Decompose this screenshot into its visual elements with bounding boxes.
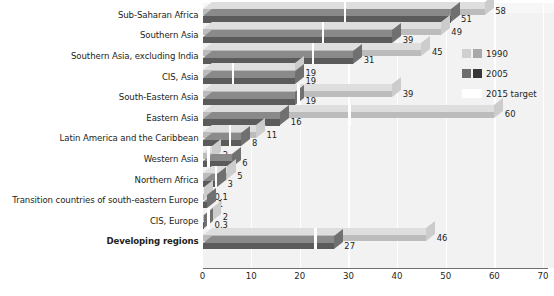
bar-top-face bbox=[203, 63, 304, 70]
bar-value-label: 6 bbox=[242, 158, 247, 168]
category-label: Southern Asia, excluding India bbox=[4, 51, 199, 61]
category-label: South-Eastern Asia bbox=[4, 92, 199, 102]
gridline bbox=[543, 4, 544, 268]
category-label: CIS, Asia bbox=[4, 72, 199, 82]
bar-top-face bbox=[203, 105, 504, 112]
bar-value-label: 49 bbox=[451, 27, 462, 37]
category-label: Developing regions bbox=[4, 236, 199, 246]
target-marker bbox=[314, 236, 316, 249]
legend-label: 1990 bbox=[486, 49, 508, 59]
x-tick-label: 40 bbox=[382, 271, 412, 281]
legend-swatch-target bbox=[462, 89, 482, 98]
bar-value-label: 8 bbox=[252, 138, 257, 148]
bar-value-label: 60 bbox=[505, 109, 516, 119]
bar-1990 bbox=[203, 194, 205, 200]
bar-top-face bbox=[203, 9, 460, 16]
target-marker bbox=[229, 133, 231, 146]
bar-value-label: 5 bbox=[237, 171, 242, 181]
bar-value-label: 3 bbox=[228, 179, 233, 189]
target-marker bbox=[207, 215, 209, 228]
bar-top-face bbox=[203, 2, 494, 9]
bar-top-face bbox=[203, 228, 436, 235]
x-tick-label: 10 bbox=[236, 271, 266, 281]
category-label: CIS, Europe bbox=[4, 216, 199, 226]
legend-swatch-dark bbox=[473, 49, 482, 58]
bar-value-label: 51 bbox=[461, 14, 472, 24]
x-axis-line bbox=[203, 268, 549, 269]
bar-top-face bbox=[203, 112, 290, 119]
bar-value-label: 46 bbox=[437, 233, 448, 243]
bar-value-label: 58 bbox=[495, 6, 506, 16]
x-tick-label: 70 bbox=[528, 271, 554, 281]
bar-top-face bbox=[203, 71, 304, 78]
legend-swatch-dark bbox=[473, 69, 482, 78]
x-tick-label: 20 bbox=[285, 271, 315, 281]
bar-value-label: 16 bbox=[291, 117, 302, 127]
x-tick-label: 60 bbox=[479, 271, 509, 281]
bar-top-face bbox=[203, 30, 402, 37]
category-label: Sub-Saharan Africa bbox=[4, 10, 199, 20]
category-label: Latin America and the Caribbean bbox=[4, 133, 199, 143]
category-label: Western Asia bbox=[4, 154, 199, 164]
chart-root: Sub-Saharan AfricaSouthern AsiaSouthern … bbox=[0, 0, 554, 296]
bar-top-face bbox=[203, 43, 431, 50]
target-marker bbox=[297, 92, 299, 105]
gridline bbox=[446, 4, 447, 268]
bar-value-label: 39 bbox=[403, 89, 414, 99]
target-marker bbox=[322, 30, 324, 43]
bar-value-label: 45 bbox=[432, 47, 443, 57]
gridline bbox=[494, 4, 495, 268]
legend-swatch-light bbox=[462, 69, 471, 78]
legend-label: 2005 bbox=[486, 69, 508, 79]
target-marker bbox=[232, 71, 234, 84]
bar-top-face bbox=[203, 51, 363, 58]
legend-label: 2015 target bbox=[486, 89, 537, 99]
target-marker bbox=[344, 9, 346, 22]
target-marker bbox=[348, 112, 350, 125]
bar-2005 bbox=[203, 222, 205, 228]
target-marker bbox=[207, 154, 209, 167]
bar-value-label: 31 bbox=[364, 55, 375, 65]
bar-top-face bbox=[203, 22, 450, 29]
x-tick-label: 30 bbox=[333, 271, 363, 281]
category-label: Southern Asia bbox=[4, 30, 199, 40]
bar-top-face bbox=[203, 236, 343, 243]
bar-top-face bbox=[203, 92, 304, 99]
category-label: Transition countries of south-eastern Eu… bbox=[4, 195, 199, 205]
x-tick-label: 50 bbox=[431, 271, 461, 281]
x-tick-label: 0 bbox=[188, 271, 218, 281]
category-label: Northern Africa bbox=[4, 175, 199, 185]
category-label: Eastern Asia bbox=[4, 113, 199, 123]
target-marker bbox=[215, 174, 217, 187]
target-marker bbox=[312, 51, 314, 64]
bar-value-label: 27 bbox=[344, 241, 355, 251]
bar-value-label: 11 bbox=[267, 130, 278, 140]
legend-swatch-light bbox=[462, 49, 471, 58]
